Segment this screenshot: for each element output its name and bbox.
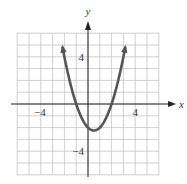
y-axis-label: y [85,5,91,17]
y-tick-label: −4 [72,145,84,157]
parabola-curve [63,48,126,131]
x-tick-label: 4 [132,106,138,118]
labels: x y −4 4 4 −4 [34,5,184,157]
curve-arrow-left-icon [60,45,66,53]
x-axis-label: x [178,98,184,110]
curve-arrow-right-icon [121,45,127,53]
parabola-graph: x y −4 4 4 −4 [0,0,187,184]
y-tick-label: 4 [79,51,85,63]
y-axis-arrow-icon [85,21,91,30]
x-axis-arrow-icon [168,101,176,107]
x-tick-label: −4 [34,106,46,118]
axes [11,21,176,177]
curve [60,45,127,131]
